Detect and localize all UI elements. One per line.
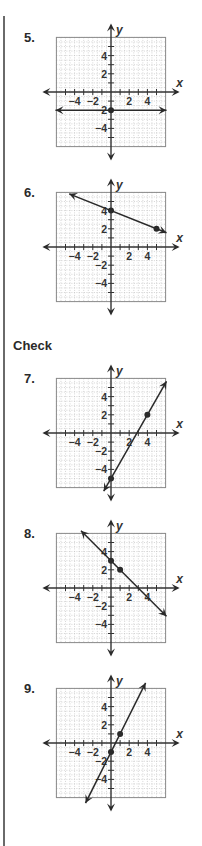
y-axis-label: y [115, 364, 124, 378]
y-axis-label: y [115, 178, 124, 192]
plotted-point [108, 475, 114, 481]
y-axis-label: y [115, 23, 124, 37]
problem-number-6: 6. [24, 185, 35, 200]
plotted-line [104, 381, 167, 491]
y-tick-label: 2 [101, 563, 107, 575]
y-tick-label: −4 [95, 277, 107, 289]
x-tick-label: 2 [126, 250, 132, 262]
x-axis-label: x [175, 417, 184, 431]
problem-number-5: 5. [24, 30, 35, 45]
y-tick-label: −4 [95, 122, 107, 134]
plotted-point [108, 107, 114, 113]
y-tick-label: −4 [95, 463, 107, 475]
section-heading-check: Check [13, 338, 52, 353]
y-tick-label: 2 [101, 408, 107, 420]
coordinate-graph-9: xy−4−22442−2−4 [38, 686, 188, 816]
y-tick-label: −2 [95, 600, 107, 612]
axes [42, 23, 179, 160]
x-tick-label: −4 [69, 746, 81, 758]
x-axis-label: x [175, 76, 184, 90]
coordinate-graph-8: xy−4−22442−2−4 [38, 531, 188, 661]
axes [42, 519, 179, 656]
y-tick-label: 4 [101, 49, 107, 61]
y-tick-label: −2 [95, 445, 107, 457]
x-tick-label: −4 [69, 250, 81, 262]
y-tick-label: −2 [95, 259, 107, 271]
plotted-point [154, 225, 160, 231]
problem-number-9: 9. [24, 681, 35, 696]
coordinate-graph-6: xy−4−22442−2−4 [38, 190, 188, 320]
x-tick-label: 4 [144, 250, 150, 262]
plotted-line [81, 530, 167, 616]
problem-number-8: 8. [24, 526, 35, 541]
coordinate-graph-7: xy−4−22442−2−4 [38, 376, 188, 506]
plotted-point [117, 730, 123, 736]
x-tick-label: 2 [126, 746, 132, 758]
y-tick-label: 2 [101, 222, 107, 234]
y-axis-label: y [115, 674, 124, 688]
y-tick-label: 4 [101, 390, 107, 402]
x-tick-label: 4 [144, 746, 150, 758]
x-axis-label: x [175, 572, 184, 586]
y-axis-label: y [115, 519, 124, 533]
plotted-point [108, 557, 114, 563]
x-tick-label: 4 [144, 95, 150, 107]
plotted-point [117, 566, 123, 572]
problem-number-7: 7. [24, 371, 35, 386]
y-tick-label: 2 [101, 718, 107, 730]
axes [42, 178, 179, 315]
x-tick-label: 2 [126, 591, 132, 603]
x-axis-label: x [175, 231, 184, 245]
x-tick-label: −4 [69, 591, 81, 603]
y-tick-label: −2 [95, 755, 107, 767]
x-tick-label: 2 [126, 95, 132, 107]
page-margin-rule [3, 16, 5, 846]
y-tick-label: 4 [101, 700, 107, 712]
x-tick-label: −4 [69, 95, 81, 107]
plotted-point [108, 749, 114, 755]
x-axis-label: x [175, 727, 184, 741]
y-tick-label: −4 [95, 618, 107, 630]
axes [42, 674, 179, 811]
plotted-point [144, 411, 150, 417]
y-tick-label: 2 [101, 67, 107, 79]
coordinate-graph-5: xy−4−22442−2−4 [38, 35, 188, 165]
x-tick-label: −4 [69, 436, 81, 448]
x-tick-label: 4 [144, 436, 150, 448]
plotted-point [108, 207, 114, 213]
